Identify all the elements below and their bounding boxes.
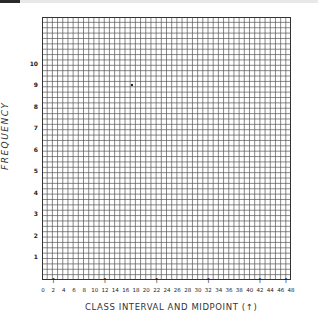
y-tick-label: 5 (28, 167, 38, 174)
midpoint-arrow-icon: ↑ (102, 278, 108, 285)
top-bar-dark-segment (0, 0, 20, 3)
x-tick-label: 26 (174, 287, 181, 293)
x-tick-label: 16 (122, 287, 129, 293)
x-tick-label: 14 (112, 287, 119, 293)
y-tick-label: 2 (28, 232, 38, 239)
x-tick-label: 4 (62, 287, 66, 293)
y-tick-label: 8 (28, 103, 38, 110)
x-tick-label: 32 (205, 287, 212, 293)
x-tick-label: 20 (143, 287, 150, 293)
x-tick-label: 0 (41, 287, 45, 293)
midpoint-arrow-icon: ↑ (283, 278, 289, 285)
x-tick-label: 34 (215, 287, 222, 293)
x-tick-label: 24 (164, 287, 171, 293)
y-tick-label: 9 (28, 81, 38, 88)
midpoint-arrow-icon: ↑ (50, 278, 56, 285)
x-axis-title: CLASS INTERVAL AND MIDPOINT (↑) (85, 302, 257, 312)
x-tick-label: 18 (133, 287, 140, 293)
x-tick-label: 6 (72, 287, 76, 293)
x-tick-label: 44 (267, 287, 274, 293)
y-tick-label: 4 (28, 189, 38, 196)
midpoint-arrow-icon: ↑ (257, 278, 263, 285)
x-tick-label: 2 (52, 287, 56, 293)
y-axis-title: FREQUENCY (0, 102, 10, 171)
x-tick-label: 48 (288, 287, 295, 293)
graph-paper-grid (42, 17, 291, 280)
x-tick-label: 42 (257, 287, 264, 293)
y-tick-label: 3 (28, 210, 38, 217)
x-tick-label: 8 (83, 287, 87, 293)
x-tick-label: 36 (226, 287, 233, 293)
x-tick-label: 30 (195, 287, 202, 293)
x-tick-label: 38 (236, 287, 243, 293)
x-tick-label: 12 (102, 287, 109, 293)
midpoint-arrow-icon: ↑ (205, 278, 211, 285)
midpoint-arrow-icon: ↑ (154, 278, 160, 285)
y-tick-label: 7 (28, 124, 38, 131)
y-tick-label: 6 (28, 146, 38, 153)
x-tick-label: 10 (91, 287, 98, 293)
grid-lines (42, 17, 291, 280)
stray-mark (131, 84, 133, 86)
x-tick-label: 46 (277, 287, 284, 293)
x-tick-label: 22 (153, 287, 160, 293)
x-tick-label: 40 (246, 287, 253, 293)
x-tick-label: 28 (184, 287, 191, 293)
y-tick-label: 1 (28, 253, 38, 260)
y-tick-label: 10 (28, 60, 38, 67)
top-bar (0, 0, 318, 3)
